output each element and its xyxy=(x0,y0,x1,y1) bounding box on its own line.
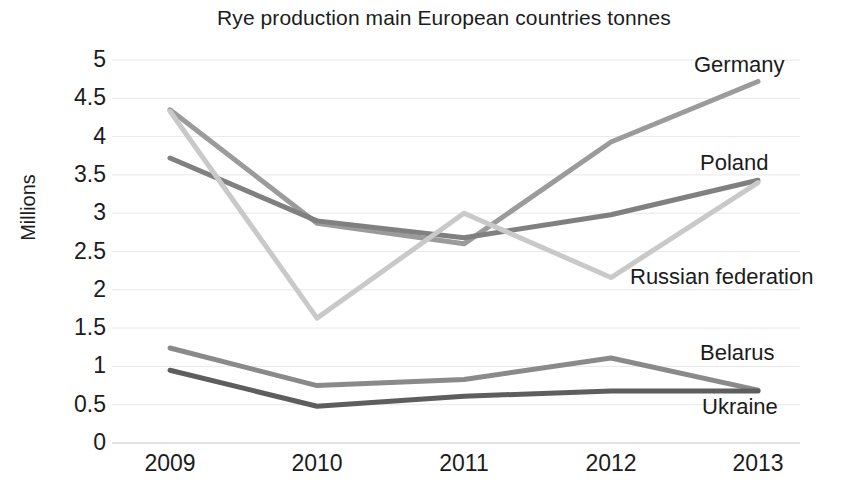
series-label-russian-federation: Russian federation xyxy=(630,266,813,288)
series-label-belarus: Belarus xyxy=(700,342,775,364)
x-tick-label: 2010 xyxy=(257,452,377,475)
series-lines xyxy=(170,81,758,406)
x-tick-label: 2012 xyxy=(551,452,671,475)
x-tick-label: 2013 xyxy=(698,452,818,475)
chart-container: Rye production main European countries t… xyxy=(0,0,848,499)
series-line-belarus xyxy=(170,348,758,390)
series-label-germany: Germany xyxy=(694,54,784,76)
series-label-ukraine: Ukraine xyxy=(702,396,778,418)
gridlines xyxy=(112,60,800,443)
series-line-poland xyxy=(170,158,758,238)
series-label-poland: Poland xyxy=(700,152,769,174)
x-tick-label: 2011 xyxy=(404,452,524,475)
series-line-germany xyxy=(170,81,758,243)
series-line-ukraine xyxy=(170,370,758,406)
x-tick-label: 2009 xyxy=(110,452,230,475)
